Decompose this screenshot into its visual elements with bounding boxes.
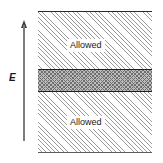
energy-axis-arrow xyxy=(21,20,28,141)
band-block: Allowed Allowed xyxy=(38,11,152,153)
axis-shaft xyxy=(23,25,25,141)
energy-band-diagram: E Allowed Allowed xyxy=(0,0,163,163)
band-block-bottom-edge xyxy=(38,152,152,153)
allowed-band-label-lower: Allowed xyxy=(67,116,105,129)
forbidden-gap-bottom-rule xyxy=(38,91,152,92)
allowed-band-label-upper: Allowed xyxy=(67,39,105,52)
energy-axis-label: E xyxy=(9,72,16,83)
forbidden-gap-band xyxy=(38,70,152,91)
band-block-top-edge xyxy=(38,11,152,12)
